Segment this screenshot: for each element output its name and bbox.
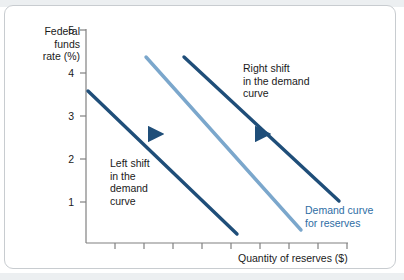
annotation-left-shift: Left shift in the demand curve [110, 157, 150, 207]
y-tick-label-2: 2 [60, 153, 74, 165]
x-axis-ticks [115, 243, 347, 249]
annotation-right-shift: Right shift in the demand curve [243, 62, 310, 100]
x-axis-title: Quantity of reserves ($) [238, 252, 348, 265]
figure-container: 5 4 3 2 1 Federal funds rate (%) Quantit… [0, 0, 404, 280]
y-axis-title: Federal funds rate (%) [18, 25, 80, 63]
y-tick-label-4: 4 [60, 67, 74, 79]
y-tick-label-3: 3 [60, 110, 74, 122]
y-tick-label-1: 1 [60, 196, 74, 208]
y-axis-ticks [80, 30, 86, 202]
annotation-demand-curve: Demand curve for reserves [305, 204, 373, 229]
